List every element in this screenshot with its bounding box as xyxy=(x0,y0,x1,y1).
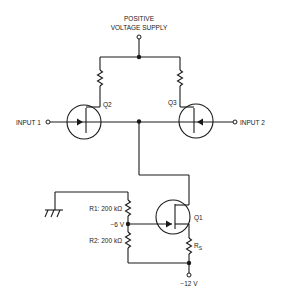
input1-label: INPUT 1 xyxy=(16,119,41,126)
supply-label-line2: VOLTAGE SUPPLY xyxy=(111,24,168,31)
resistor-icon xyxy=(178,57,183,105)
input2-label: INPUT 2 xyxy=(240,119,265,126)
ground-icon xyxy=(45,210,63,217)
circuit-diagram: POSITIVE VOLTAGE SUPPLY Q2 INPUT 1 Q3 xyxy=(0,0,284,304)
input2-terminal xyxy=(233,120,237,124)
jfet-q1-icon xyxy=(156,200,190,234)
r2-label: R2: 200 kΩ xyxy=(89,237,122,244)
jfet-q3-icon xyxy=(179,104,213,138)
resistor-r2-icon xyxy=(126,232,131,248)
divider-junction-dot xyxy=(126,222,130,226)
q1-label: Q1 xyxy=(194,214,203,222)
negative-supply-label: −12 V xyxy=(180,280,198,287)
resistor-r1-icon xyxy=(126,200,131,216)
supply-label-line1: POSITIVE xyxy=(124,15,155,22)
q2-label: Q2 xyxy=(103,101,112,109)
resistor-icon xyxy=(98,57,103,107)
rs-label: RS xyxy=(194,242,203,251)
input1-terminal xyxy=(46,120,50,124)
negative-supply-terminal xyxy=(187,273,191,277)
q3-label: Q3 xyxy=(168,99,177,107)
mid-voltage-label: −6 V xyxy=(110,221,124,228)
resistor-rs-icon xyxy=(187,238,192,254)
r1-label: R1: 200 kΩ xyxy=(89,205,122,212)
supply-terminal xyxy=(137,35,141,39)
